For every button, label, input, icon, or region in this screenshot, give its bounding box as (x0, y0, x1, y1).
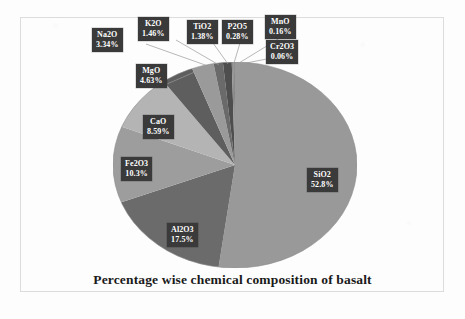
callout-tio2-label: TiO2 (191, 22, 214, 32)
callout-cr2o3-label: Cr2O3 (270, 42, 294, 52)
callout-tio2-value: 1.38% (191, 32, 214, 42)
callout-sio2-value: 52.8% (311, 180, 334, 190)
callout-cr2o3-value: 0.06% (270, 52, 294, 62)
callout-fe2o3[interactable]: Fe2O3 10.3% (121, 157, 152, 181)
callout-sio2[interactable]: SiO2 52.8% (307, 168, 338, 192)
callout-na2o-label: Na2O (96, 30, 119, 40)
callout-al2o3[interactable]: Al2O3 17.5% (167, 223, 198, 247)
leader-line-tio2 (213, 43, 228, 64)
callout-k2o-value: 1.46% (142, 29, 165, 39)
callout-cao-label: CaO (147, 117, 170, 127)
callout-fe2o3-label: Fe2O3 (125, 159, 148, 169)
pie-chart: Na2O 3.34% K2O 1.46% TiO2 1.38% P2O5 0.2… (0, 0, 465, 319)
callout-fe2o3-value: 10.3% (125, 169, 148, 179)
callout-sio2-label: SiO2 (311, 170, 334, 180)
callout-mno-value: 0.16% (269, 27, 292, 37)
callout-p2o5-value: 0.28% (226, 32, 249, 42)
callout-k2o[interactable]: K2O 1.46% (138, 17, 169, 41)
callout-mno[interactable]: MnO 0.16% (265, 15, 296, 39)
callout-cr2o3[interactable]: Cr2O3 0.06% (266, 40, 298, 64)
callout-p2o5[interactable]: P2O5 0.28% (222, 20, 253, 44)
callout-cao-value: 8.59% (147, 127, 170, 137)
callout-mgo[interactable]: MgO 4.63% (136, 64, 167, 88)
leader-line-p2o5 (234, 43, 240, 63)
callout-al2o3-label: Al2O3 (171, 225, 194, 235)
callout-na2o[interactable]: Na2O 3.34% (92, 28, 123, 52)
callout-mno-label: MnO (269, 17, 292, 27)
callout-na2o-value: 3.34% (96, 40, 119, 50)
callout-p2o5-label: P2O5 (226, 22, 249, 32)
callout-al2o3-value: 17.5% (171, 235, 194, 245)
figure-page: Na2O 3.34% K2O 1.46% TiO2 1.38% P2O5 0.2… (0, 0, 465, 319)
chart-title: Percentage wise chemical composition of … (0, 272, 465, 288)
callout-mgo-value: 4.63% (140, 76, 163, 86)
callout-cao[interactable]: CaO 8.59% (143, 115, 174, 139)
callout-tio2[interactable]: TiO2 1.38% (187, 20, 218, 44)
callout-mgo-label: MgO (140, 66, 163, 76)
callout-k2o-label: K2O (142, 19, 165, 29)
